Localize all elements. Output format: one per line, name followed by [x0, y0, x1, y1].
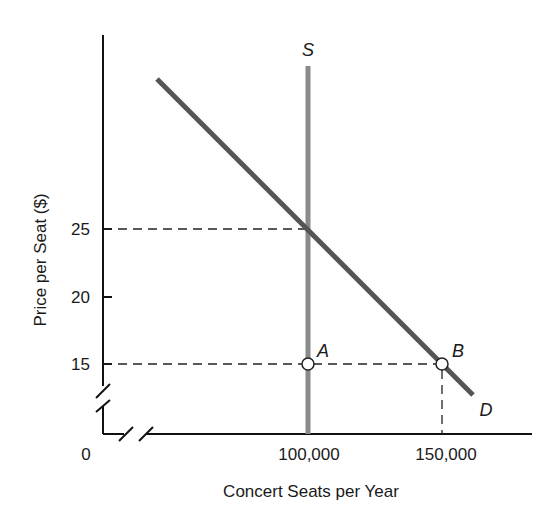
point-a-label: A: [316, 341, 329, 361]
point-a-marker: [302, 358, 314, 370]
y-tick-label-25: 25: [71, 220, 90, 239]
point-b-label: B: [452, 341, 464, 361]
supply-demand-chart: 25 20 15 0 100,000 150,000 Concert Seats…: [0, 0, 547, 524]
y-tick-label-15: 15: [71, 355, 90, 374]
y-axis-title: Price per Seat ($): [31, 193, 50, 326]
demand-label: D: [480, 400, 493, 420]
origin-label: 0: [81, 445, 90, 464]
x-tick-label-100000: 100,000: [278, 445, 339, 464]
y-tick-label-20: 20: [71, 288, 90, 307]
y-axis-break-mark-upper: [96, 384, 110, 398]
supply-label: S: [302, 40, 314, 60]
x-axis-title: Concert Seats per Year: [223, 482, 399, 501]
point-b-marker: [436, 358, 448, 370]
demand-curve: [157, 79, 473, 395]
x-tick-label-150000: 150,000: [415, 445, 476, 464]
